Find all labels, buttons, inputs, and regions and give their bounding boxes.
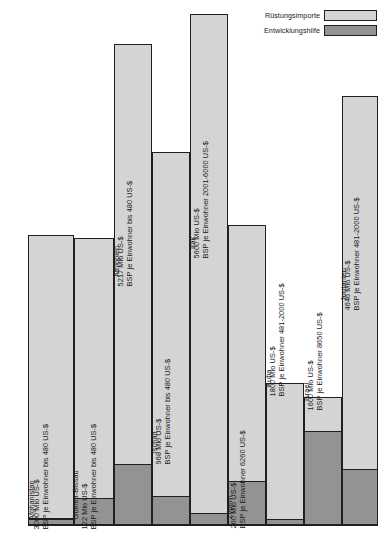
bar-value-israel: 1600 Mio US-$ bbox=[306, 360, 315, 410]
bar-israel bbox=[304, 397, 342, 525]
bar-gnp-aethiopien: BSP je Einwohner bis 480 US-$ bbox=[125, 181, 134, 287]
bar-label-value-tschad: 968 Mio US-$ BSP je Einwohner bis 480 US… bbox=[154, 359, 172, 465]
bar-value-irak: 5600 Mio US-$ bbox=[192, 208, 201, 258]
bar-gnp-zypern: BSP je Einwohner 6260 US-$ bbox=[238, 430, 247, 528]
bar-value-zypern: 260 Mio US-$ bbox=[229, 483, 238, 529]
bar-value-kuba: 1800 Mio US-$ bbox=[268, 346, 277, 396]
bar-gnp-afghanistan: BSP je Einwohner bis 480 US-$ bbox=[41, 424, 50, 530]
bar-gnp-kuba: BSP je Einwohner 481-2000 US-$ bbox=[277, 283, 286, 396]
bar-gnp-tschad: BSP je Einwohner bis 480 US-$ bbox=[163, 359, 172, 465]
bar-segment-aid-jordanien bbox=[342, 469, 378, 525]
bar-label-value-irak: 5600 Mio US-$ BSP je Einwohner 2001-6000… bbox=[192, 141, 210, 258]
bar-segment-arms-irak bbox=[190, 14, 228, 514]
bar-label-value-jordanien: 4646 Mio US-$ BSP je Einwohner 481-2000 … bbox=[343, 197, 361, 310]
bar-segment-aid-irak bbox=[190, 513, 228, 525]
bar-tschad bbox=[152, 152, 190, 525]
bar-segment-aid-aethiopien bbox=[114, 464, 152, 525]
bar-gnp-irak: BSP je Einwohner 2001-6000 US-$ bbox=[201, 141, 210, 258]
bar-segment-aid-israel bbox=[304, 431, 342, 525]
bar-jordanien bbox=[342, 96, 378, 525]
plot-area: Afghanistan 3000 Mio US-$ BSP je Einwohn… bbox=[0, 0, 382, 537]
bar-value-guinea-bissau: 122 Mio US-$ bbox=[80, 484, 89, 530]
bar-label-value-zypern: 260 Mio US-$ BSP je Einwohner 6260 US-$ bbox=[229, 430, 247, 528]
bar-value-tschad: 968 Mio US-$ bbox=[154, 419, 163, 465]
bar-value-afghanistan: 3000 Mio US-$ bbox=[32, 479, 41, 529]
bar-gnp-jordanien: BSP je Einwohner 481-2000 US-$ bbox=[352, 197, 361, 310]
bar-segment-aid-tschad bbox=[152, 496, 190, 525]
bar-kuba bbox=[266, 383, 304, 525]
bar-label-value-guinea-bissau: 122 Mio US-$ BSP je Einwohner bis 480 US… bbox=[80, 424, 98, 530]
bar-label-value-israel: 1600 Mio US-$ BSP je Einwohner 8650 US-$ bbox=[306, 312, 324, 410]
bar-value-jordanien: 4646 Mio US-$ bbox=[343, 260, 352, 310]
bar-gnp-israel: BSP je Einwohner 8650 US-$ bbox=[315, 312, 324, 410]
bar-label-value-kuba: 1800 Mio US-$ BSP je Einwohner 481-2000 … bbox=[268, 283, 286, 396]
bar-label-value-afghanistan: 3000 Mio US-$ BSP je Einwohner bis 480 U… bbox=[32, 424, 50, 530]
bar-value-aethiopien: 5217 Mio US-$ bbox=[116, 236, 125, 286]
bar-label-value-aethiopien: 5217 Mio US-$ BSP je Einwohner bis 480 U… bbox=[116, 181, 134, 287]
bar-segment-arms-kuba bbox=[266, 383, 304, 520]
bar-gnp-guinea-bissau: BSP je Einwohner bis 480 US-$ bbox=[89, 424, 98, 530]
bar-irak bbox=[190, 14, 228, 525]
chart-baseline bbox=[28, 525, 378, 526]
chart-container: Rüstungsimporte Entwicklungshilfe Afghan… bbox=[0, 0, 382, 537]
